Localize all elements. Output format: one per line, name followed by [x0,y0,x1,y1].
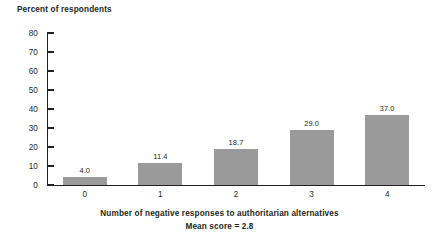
bar [138,163,182,185]
y-axis-tick [48,89,54,90]
bar [63,177,107,185]
y-axis-title: Percent of respondents [17,5,112,14]
y-axis-tick [48,70,54,71]
bar [290,130,334,185]
y-axis-tick [48,146,54,147]
y-axis-tick-label: 0 [12,181,38,190]
y-axis-tick [48,51,54,52]
y-axis-tick-label: 50 [12,86,38,95]
bar-value-label: 29.0 [292,119,332,128]
y-axis-tick-label: 30 [12,124,38,133]
x-axis-tick-label: 3 [292,190,332,199]
bar [214,149,258,185]
mean-score-annotation: Mean score = 2.8 [0,222,439,231]
y-axis-tick-label: 20 [12,143,38,152]
bar-value-label: 11.4 [140,152,180,161]
y-axis-tick-label: 60 [12,67,38,76]
bar-value-label: 18.7 [216,138,256,147]
bar-chart: Percent of respondents 80706050403020100… [0,0,439,246]
y-axis-tick-label: 40 [12,105,38,114]
bar-value-label: 37.0 [367,104,407,113]
x-axis-tick-label: 0 [65,190,105,199]
y-axis-tick-label: 10 [12,162,38,171]
y-axis-tick [48,184,54,185]
x-axis-tick-label: 4 [367,190,407,199]
y-axis-tick [48,108,54,109]
y-axis-tick [48,165,54,166]
x-axis-tick-label: 1 [140,190,180,199]
x-axis-tick-label: 2 [216,190,256,199]
bar [365,115,409,185]
y-axis-tick-label: 80 [12,29,38,38]
y-axis-tick [48,32,54,33]
bar-value-label: 4.0 [65,166,105,175]
y-axis-tick-label: 70 [12,48,38,57]
y-axis-tick [48,127,54,128]
x-axis-title: Number of negative responses to authorit… [0,209,439,218]
